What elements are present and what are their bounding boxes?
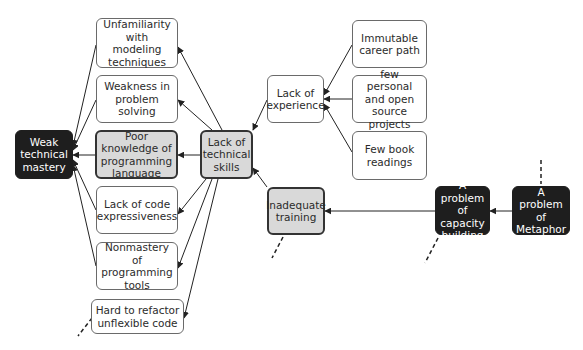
dashed-connector (425, 238, 438, 263)
node-poor-knowledge-language: Poor knowledge of programming language (95, 130, 178, 179)
node-weak-technical-mastery: Weak technical mastery (15, 130, 73, 179)
dashed-connector (78, 318, 92, 336)
node-metaphor: A problem of Metaphor (512, 186, 570, 235)
cause-effect-diagram: Weak technical mastery Unfamiliarity wit… (0, 0, 583, 350)
node-inadequate-training: Inadequate training (267, 187, 325, 235)
edge-few-book-readings-to-lack-experience (324, 104, 352, 152)
node-few-personal-projects: few personal and open source projects (352, 75, 427, 123)
node-few-book-readings: Few book readings (352, 131, 427, 180)
edge-weakness-problem-solving-to-weak-technical-mastery (73, 100, 96, 150)
edge-lack-technical-skills-to-lack-code-expressiveness (178, 179, 206, 214)
edge-immutable-career-to-lack-experience (324, 45, 352, 95)
edge-unfamiliarity-modeling-to-weak-technical-mastery (73, 45, 96, 146)
node-capacity-building: A problem of capacity building (435, 186, 490, 235)
edge-lack-code-expressiveness-to-weak-technical-mastery (73, 160, 96, 210)
edge-nonmastery-tools-to-weak-technical-mastery (73, 165, 96, 266)
dashed-connector (272, 237, 283, 258)
edge-lack-technical-skills-to-unfamiliarity-modeling (178, 47, 222, 130)
node-lack-code-expressiveness: Lack of code expressiveness (96, 186, 178, 234)
node-immutable-career: Immutable career path (352, 20, 427, 68)
node-nonmastery-tools: Nonmastery of programming tools (96, 242, 178, 290)
edge-lack-technical-skills-to-weakness-problem-solving (178, 100, 212, 130)
node-lack-experience: Lack of experience (267, 75, 324, 123)
edge-lack-experience-to-lack-technical-skills (253, 100, 267, 130)
node-hard-to-refactor: Hard to refactor unflexible code (91, 299, 184, 334)
diagram-edges (0, 0, 583, 350)
node-lack-technical-skills: Lack of technical skills (200, 130, 253, 179)
node-unfamiliarity-modeling: Unfamiliarity with modeling techniques (96, 18, 178, 68)
edge-inadequate-training-to-lack-technical-skills (253, 168, 267, 187)
node-weakness-problem-solving: Weakness in problem solving (96, 75, 178, 123)
